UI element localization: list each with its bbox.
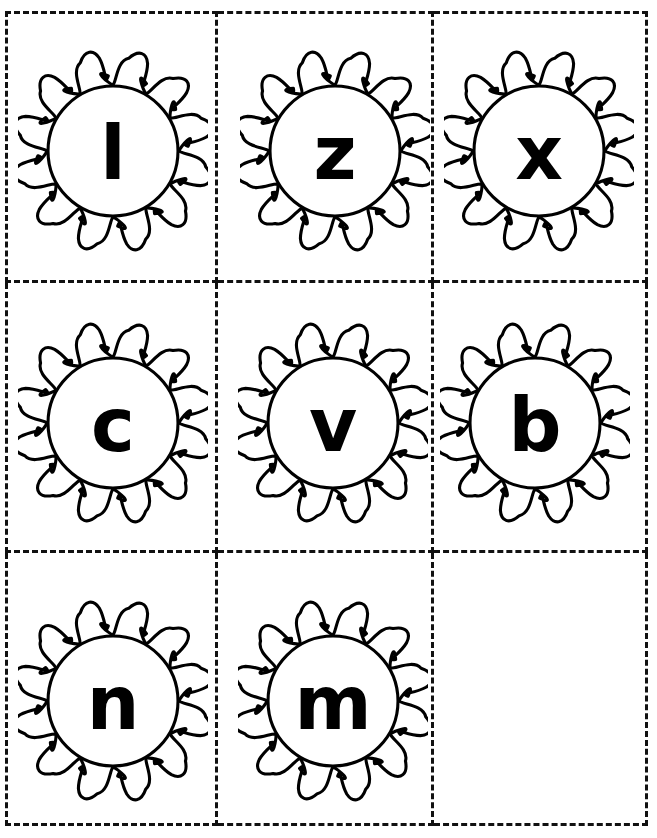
card-cell-r2c2[interactable]: [218, 283, 434, 553]
card-cell-r3c1[interactable]: [5, 553, 218, 826]
card-cell-r2c3[interactable]: [434, 283, 648, 553]
worksheet-page: l z x c: [0, 0, 657, 838]
card-cell-r1c1[interactable]: [5, 11, 218, 283]
card-cell-r1c2[interactable]: [218, 11, 434, 283]
card-cell-r2c1[interactable]: [5, 283, 218, 553]
card-cell-r3c3-empty[interactable]: [434, 553, 648, 826]
cut-out-grid: [5, 11, 648, 826]
card-cell-r3c2[interactable]: [218, 553, 434, 826]
card-cell-r1c3[interactable]: [434, 11, 648, 283]
